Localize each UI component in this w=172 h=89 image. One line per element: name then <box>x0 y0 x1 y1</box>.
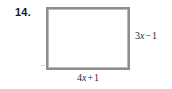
width-constant: 1 <box>94 72 99 83</box>
width-operator: + <box>86 72 94 83</box>
height-operator: − <box>144 30 152 41</box>
problem-figure-page: 14. 3x−1 4x+1 <box>0 0 172 89</box>
problem-number-label: 14. <box>15 6 31 19</box>
height-constant: 1 <box>152 30 157 41</box>
rectangle-width-label: 4x+1 <box>0 72 172 84</box>
scan-speck-mark <box>41 65 45 66</box>
rectangle-height-label: 3x−1 <box>135 30 157 42</box>
rectangle-shape <box>46 7 130 70</box>
